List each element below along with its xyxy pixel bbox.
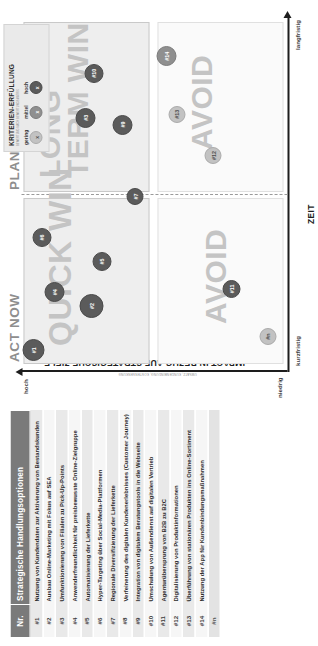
bubble-n2[interactable]: #2 — [79, 294, 103, 318]
bubble-n6[interactable]: #6 — [32, 228, 51, 247]
poster-canvas: Nr. Strategische Handlungsoptionen #1Nut… — [2, 0, 318, 646]
legend-criteria-fulfillment: KRITERIEN-ERFÜLLUNG BEWERTUNG NACH BEWER… — [4, 24, 50, 152]
table-body: #1Nutzung von Kundendaten zur Aktivierun… — [30, 411, 220, 638]
bubble-n10[interactable]: #10 — [84, 64, 103, 83]
legend-marker-icon: x — [30, 81, 43, 94]
cell-option: Nutzung von Kundendaten zur Aktivierung … — [30, 411, 43, 605]
cell-nr: #8 — [119, 605, 132, 638]
table-row[interactable]: #6Hyper-Targeting über Social-Media-Plat… — [93, 411, 106, 638]
cell-option: Überführung von stationären Produkten in… — [182, 411, 195, 605]
cell-nr: #9 — [132, 605, 145, 638]
cell-nr: #6 — [93, 605, 106, 638]
table-row[interactable]: #2Ausbau Online-Marketing mit Fokus auf … — [43, 411, 56, 638]
cell-option: Umfunktionierung von Filialen zu Pick-Up… — [55, 411, 68, 605]
bubble-n13[interactable]: #13 — [168, 106, 185, 123]
table-row[interactable]: #3Umfunktionierung von Filialen zu Pick-… — [55, 411, 68, 638]
table-row[interactable]: #n — [208, 411, 221, 638]
legend-subtitle: BEWERTUNG NACH BEWERTUNGSMATRIX — [16, 30, 19, 146]
table-row[interactable]: #12Digitalisierung von Produktinformatio… — [170, 411, 183, 638]
cell-nr: #4 — [68, 605, 81, 638]
table-row[interactable]: #8Verfeinerung des digitalen Kundenerleb… — [119, 411, 132, 638]
x-axis-line — [288, 16, 290, 372]
cell-option: Nutzung der App für Kundenbindungsmaßnah… — [195, 411, 208, 605]
table-row[interactable]: #4Anwenderfreundlichkeit für preisbewuss… — [68, 411, 81, 638]
legend-item-label: hoch — [22, 82, 28, 94]
bubble-n9[interactable]: #9 — [112, 115, 132, 135]
cell-option: Hyper-Targeting über Social-Media-Plattf… — [93, 411, 106, 605]
column-header-options: Strategische Handlungsoptionen — [10, 411, 30, 605]
table-row[interactable]: #5Automatisierung der Lieferkette — [81, 411, 94, 638]
cell-nr: #12 — [170, 605, 183, 638]
cell-nr: #11 — [157, 605, 170, 638]
x-axis-title: ZEIT — [306, 204, 316, 224]
y-axis-arrow-icon — [16, 368, 23, 376]
cell-nr: #5 — [81, 605, 94, 638]
y-tick-low: niedrig — [276, 377, 283, 398]
table-row[interactable]: #10Umschulung von Außendienst auf digita… — [144, 411, 157, 638]
cell-option: Agenturübersprung von B2B zu B2C — [157, 411, 170, 605]
quadrant-header-act-now: ACT NOW — [7, 293, 22, 362]
legend-marker-icon: x — [30, 106, 43, 119]
legend-item-label: mittel — [22, 105, 28, 118]
table-row[interactable]: #1Nutzung von Kundendaten zur Aktivierun… — [30, 411, 43, 638]
x-tick-short-term: kurzfristig — [294, 336, 301, 366]
cell-nr: #n — [208, 605, 221, 638]
cell-option: Automatisierung der Lieferkette — [81, 411, 94, 605]
action-options-table-panel: Nr. Strategische Handlungsoptionen #1Nut… — [10, 410, 311, 638]
cell-nr: #13 — [182, 605, 195, 638]
cell-option: Integration von digitalem Beratungstools… — [132, 411, 145, 605]
legend-marker-icon: x — [30, 131, 43, 144]
cell-nr: #2 — [43, 605, 56, 638]
cell-option: Ausbau Online-Marketing mit Fokus auf SE… — [43, 411, 56, 605]
cell-option: Umschulung von Außendienst auf digitalen… — [144, 411, 157, 605]
column-header-nr: Nr. — [10, 605, 30, 638]
action-options-table: Nr. Strategische Handlungsoptionen #1Nut… — [10, 410, 221, 638]
cell-nr: #7 — [106, 605, 119, 638]
y-axis-line — [22, 370, 288, 372]
table-row[interactable]: #14Nutzung der App für Kundenbindungsmaß… — [195, 411, 208, 638]
cell-nr: #10 — [144, 605, 157, 638]
y-axis-subtitle: UMSATZ, KUNDENBINDUNG, KOSTENSENKUNG — [78, 372, 238, 376]
legend-title: KRITERIEN-ERFÜLLUNG — [9, 30, 16, 146]
legend-item-gering: geringx — [22, 130, 43, 145]
table-row[interactable]: #13Überführung von stationären Produkten… — [182, 411, 195, 638]
cell-nr: #1 — [30, 605, 43, 638]
bubble-nn[interactable]: #n — [259, 328, 276, 345]
table-header-row: Nr. Strategische Handlungsoptionen — [10, 411, 30, 638]
legend-item-label: gering — [22, 130, 28, 145]
cell-option: Anwenderfreundlichkeit für preisbewusste… — [68, 411, 81, 605]
cell-nr: #14 — [195, 605, 208, 638]
bubble-n11[interactable]: #11 — [223, 280, 241, 298]
cell-option: Digitalisierung von Produktinformationen — [170, 411, 183, 605]
y-tick-high: hoch — [22, 379, 29, 394]
quadrant-quick-win — [24, 198, 150, 364]
x-axis-arrow-icon — [284, 11, 292, 18]
impact-time-matrix: IMPACT IN BEZUG AUF STRATEGISCHE ZIELE U… — [6, 4, 315, 402]
bubble-n5[interactable]: #5 — [92, 252, 111, 271]
legend-item-hoch: hochx — [22, 81, 43, 94]
table-row[interactable]: #7Regionale Diversifizierung der Lieferk… — [106, 411, 119, 638]
legend-item-mittel: mittelx — [22, 105, 43, 118]
quadrant-divider — [22, 195, 288, 196]
table-row[interactable]: #11Agenturübersprung von B2B zu B2C — [157, 411, 170, 638]
cell-option: Regionale Diversifizierung der Lieferket… — [106, 411, 119, 605]
cell-nr: #3 — [55, 605, 68, 638]
cell-option: Verfeinerung des digitalen Kundenerlebni… — [119, 411, 132, 605]
cell-option — [208, 411, 221, 605]
x-tick-long-term: langfristig — [294, 20, 301, 50]
table-row[interactable]: #9Integration von digitalem Beratungstoo… — [132, 411, 145, 638]
legend-items: geringxmittelxhochx — [22, 30, 43, 146]
